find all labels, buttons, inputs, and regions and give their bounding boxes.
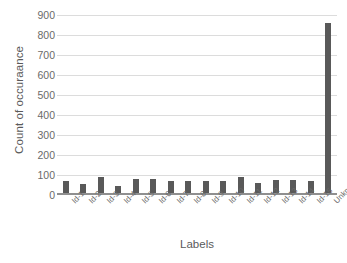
x-tick-label: Unknown — [332, 199, 338, 205]
x-tick-label: Id-8 — [192, 199, 198, 205]
x-tick-label: Id-2 — [87, 199, 93, 205]
bar-slot — [145, 15, 163, 195]
x-tick-label: Id-14 — [297, 199, 303, 205]
x-tick-label: Id-5 — [140, 199, 146, 205]
y-tick-label: 300 — [37, 129, 55, 141]
x-tick-label: Id-6 — [157, 199, 163, 205]
y-tick-label: 400 — [37, 109, 55, 121]
bar-slot — [320, 15, 338, 195]
bar-slot — [162, 15, 180, 195]
bar-slot — [57, 15, 75, 195]
bar-slot — [75, 15, 93, 195]
x-axis-tick-labels: Id-1Id-2Id-3Id-4Id-5Id-6Id-7Id-8Id-9Id-1… — [57, 197, 337, 237]
bar-slot — [250, 15, 268, 195]
y-tick-label: 900 — [37, 9, 55, 21]
x-tick-label: Id-10 — [227, 199, 233, 205]
bars-container — [57, 15, 337, 195]
y-tick-label: 0 — [49, 189, 55, 201]
y-tick-label: 200 — [37, 149, 55, 161]
bar[interactable] — [325, 23, 331, 195]
y-tick-label: 800 — [37, 29, 55, 41]
bar-slot — [127, 15, 145, 195]
y-tick-label: 500 — [37, 89, 55, 101]
bar-slot — [197, 15, 215, 195]
bar-slot — [302, 15, 320, 195]
x-tick-label: Id-9 — [210, 199, 216, 205]
x-tick-label: Id-3 — [105, 199, 111, 205]
x-tick-label: Id-12 — [262, 199, 268, 205]
bar-slot — [215, 15, 233, 195]
y-tick-label: 700 — [37, 49, 55, 61]
x-tick-label: Id-15 — [315, 199, 321, 205]
bar-slot — [232, 15, 250, 195]
plot-area — [57, 15, 337, 195]
bar-slot — [180, 15, 198, 195]
bar-chart-figure: Count of occuraance 01002003004005006007… — [0, 0, 347, 263]
x-tick-label: Id-11 — [245, 199, 251, 205]
bar-slot — [110, 15, 128, 195]
x-tick-label: Id-13 — [280, 199, 286, 205]
bar-slot — [267, 15, 285, 195]
x-axis-title: Labels — [57, 238, 337, 250]
x-tick-label: Id-1 — [70, 199, 76, 205]
y-tick-label: 100 — [37, 169, 55, 181]
bar-slot — [92, 15, 110, 195]
bar-slot — [285, 15, 303, 195]
y-tick-label: 600 — [37, 69, 55, 81]
x-tick-label: Id-7 — [175, 199, 181, 205]
y-axis-tick-labels: 0100200300400500600700800900 — [26, 15, 55, 195]
y-axis-title-text: Count of occuraance — [13, 46, 25, 154]
x-tick-label: Id-4 — [122, 199, 128, 205]
